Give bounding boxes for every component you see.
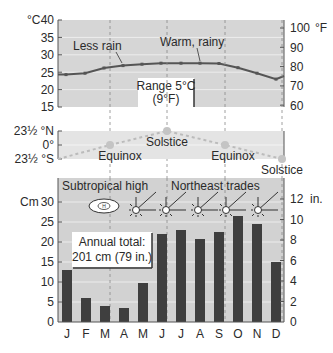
less-rain-note: Less rain [73, 39, 122, 53]
solstice-december-label: Solstice [261, 163, 303, 177]
svg-text:M: M [100, 327, 110, 341]
climate-chart: °C 40 35 30 25 20 15 100 90 80 70 60 °F [0, 0, 333, 353]
month-labels: J F M A M J J A S O N D [64, 327, 281, 341]
svg-text:80: 80 [290, 60, 304, 74]
svg-text:H: H [102, 203, 106, 209]
fahrenheit-unit-label: °F [315, 21, 327, 35]
svg-text:10: 10 [41, 275, 55, 289]
svg-text:J: J [159, 327, 165, 341]
svg-text:S: S [215, 327, 223, 341]
bar-apr [119, 308, 129, 322]
bar-may [138, 283, 148, 322]
svg-text:4: 4 [290, 274, 297, 288]
tick-equator: 0° [43, 138, 55, 152]
equinox-september-label: Equinox [211, 149, 254, 163]
high-pressure-icon: H [89, 199, 119, 213]
range-fahrenheit: (9°F) [153, 92, 180, 106]
svg-text:0: 0 [47, 315, 54, 329]
warm-rainy-note: Warm, rainy [160, 35, 224, 49]
tick-23-south: 23½ °S [15, 152, 55, 166]
svg-text:70: 70 [290, 79, 304, 93]
svg-text:25: 25 [41, 215, 55, 229]
tick-23-north: 23½ °N [14, 124, 54, 138]
svg-text:A: A [196, 327, 204, 341]
cm-tick-labels: 30 25 20 15 10 5 0 [41, 195, 55, 329]
bar-oct [233, 216, 243, 322]
svg-text:8: 8 [290, 233, 297, 247]
bar-sep [214, 232, 224, 322]
bar-jul [176, 230, 186, 322]
inch-unit-label: in. [310, 192, 323, 206]
bar-jan [62, 270, 72, 322]
svg-text:A: A [120, 327, 128, 341]
annual-total-value: 201 cm (79 in.) [72, 250, 152, 264]
svg-text:F: F [82, 327, 89, 341]
svg-text:N: N [253, 327, 262, 341]
svg-text:J: J [178, 327, 184, 341]
svg-text:10: 10 [290, 213, 304, 227]
cm-unit-label: Cm [20, 195, 39, 209]
svg-text:O: O [233, 327, 242, 341]
bar-dec [271, 262, 281, 322]
svg-text:90: 90 [290, 41, 304, 55]
svg-text:0: 0 [290, 315, 297, 329]
svg-text:100: 100 [290, 21, 310, 35]
bar-nov [252, 224, 262, 322]
inch-tick-labels: 12 10 8 6 4 2 0 [290, 192, 304, 329]
bar-jun [157, 234, 167, 322]
sun-path-panel: 23½ °N 0° 23½ °S Equinox Solstice Equino… [14, 124, 303, 177]
svg-text:60: 60 [290, 99, 304, 113]
annual-total-label: Annual total: [79, 235, 146, 249]
svg-text:12: 12 [290, 192, 304, 206]
svg-text:30: 30 [41, 195, 55, 209]
celsius-unit-label: °C [27, 13, 41, 27]
svg-text:30: 30 [41, 48, 55, 62]
subtropical-high-note: Subtropical high [62, 179, 148, 193]
equinox-march-label: Equinox [98, 149, 141, 163]
bar-feb [81, 298, 91, 322]
svg-text:5: 5 [47, 295, 54, 309]
svg-text:20: 20 [41, 235, 55, 249]
bar-mar [100, 306, 110, 322]
celsius-tick-labels: 40 35 30 25 20 15 [41, 13, 55, 114]
svg-text:35: 35 [41, 31, 55, 45]
northeast-trades-note: Northeast trades [171, 179, 260, 193]
svg-text:2: 2 [290, 295, 297, 309]
solstice-june-label: Solstice [146, 135, 188, 149]
precipitation-panel: Cm 30 25 20 15 10 5 0 12 10 8 6 4 2 0 in… [20, 178, 323, 341]
svg-text:D: D [272, 327, 281, 341]
fahrenheit-tick-labels: 100 90 80 70 60 [290, 21, 310, 113]
svg-text:40: 40 [41, 13, 55, 27]
svg-text:25: 25 [41, 66, 55, 80]
svg-text:15: 15 [41, 255, 55, 269]
svg-text:15: 15 [41, 100, 55, 114]
svg-text:M: M [138, 327, 148, 341]
range-celsius: Range 5°C [137, 79, 196, 93]
svg-text:20: 20 [41, 83, 55, 97]
bar-aug [195, 239, 205, 322]
svg-text:6: 6 [290, 254, 297, 268]
svg-text:J: J [64, 327, 70, 341]
